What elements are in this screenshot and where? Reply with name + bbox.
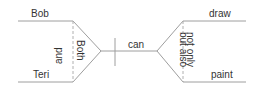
predicate-top-label: draw	[209, 8, 231, 19]
subject-conjunction-right-label: Both	[75, 40, 86, 61]
predicate-conjunction-left-label: but also	[178, 32, 189, 67]
sentence-diagram: Bob Teri Both and can not only but also …	[0, 0, 255, 88]
subject-conjunction-left-label: and	[53, 47, 64, 64]
verb-label: can	[128, 39, 144, 50]
subject-bottom-label: Teri	[33, 69, 49, 80]
predicate-bottom-label: paint	[211, 69, 233, 80]
subject-top-label: Bob	[31, 8, 49, 19]
